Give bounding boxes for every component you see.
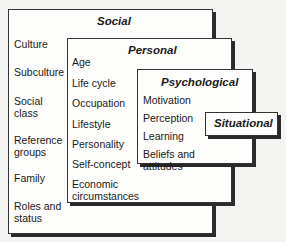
personal-title: Personal [128,44,177,56]
social-item: Family [14,172,45,184]
psychological-item: Learning [143,130,184,142]
personal-item: Self-concept [72,158,130,170]
psychological-title: Psychological [161,76,238,88]
personal-item: Age [72,56,91,68]
psychological-item: Perception [143,112,193,124]
personal-item: Personality [72,138,124,150]
personal-item: Life cycle [72,77,116,89]
psychological-item: Motivation [143,94,191,106]
social-item: Reference groups [14,134,62,158]
personal-item: Occupation [72,97,125,109]
social-item: Social class [14,95,43,119]
social-item: Subculture [14,66,64,78]
situational-title: Situational [214,117,273,129]
social-title: Social [97,15,131,27]
personal-item: Economic circumstances [72,178,139,202]
personal-item: Lifestyle [72,118,111,130]
social-item: Roles and status [14,200,61,224]
social-item: Culture [14,38,48,50]
psychological-item: Beliefs and attitudes [143,148,195,172]
